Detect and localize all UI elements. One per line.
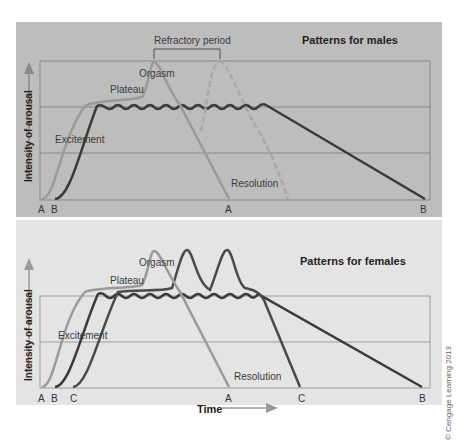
refractory-bracket [154,49,220,59]
females-title: Patterns for females [300,255,406,267]
refractory-label: Refractory period [154,35,231,46]
female-curve-c [73,250,300,387]
x-tick: B [51,204,58,215]
plateau-label: Plateau [110,275,144,286]
x-tick: C [298,393,305,404]
resolution-label: Resolution [231,178,278,189]
y-axis-label: Intensity of arousal [23,90,34,182]
x-axis-label: Time [197,403,222,415]
x-tick: A [38,393,45,404]
excitement-label: Excitement [58,330,108,341]
arousal-chart: Refractory period Patterns for males Org… [0,0,469,442]
orgasm-label: Orgasm [139,68,175,79]
x-tick: B [420,204,427,215]
excitement-label: Excitement [55,134,105,145]
y-axis-label: Intensity of arousal [23,289,34,381]
copyright-text: © Cengage Learning 2013 [444,346,453,440]
x-axis-arrow-icon [222,403,278,413]
x-tick: C [70,393,77,404]
x-tick: A [38,204,45,215]
x-tick: A [225,204,232,215]
x-tick: A [225,393,232,404]
x-tick: B [419,393,426,404]
males-title: Patterns for males [302,34,398,46]
orgasm-label: Orgasm [139,257,175,268]
plateau-label: Plateau [110,84,144,95]
x-tick: B [51,393,58,404]
resolution-label: Resolution [234,371,281,382]
